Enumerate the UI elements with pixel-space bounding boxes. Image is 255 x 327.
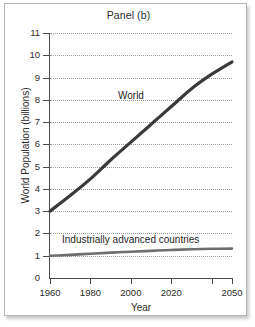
series-label-industrially-advanced-countries: Industrially advanced countries <box>62 234 199 245</box>
series-line-world <box>50 62 232 211</box>
series-label-world: World <box>118 90 144 101</box>
chart-series-layer <box>0 0 255 327</box>
series-line-industrially-advanced-countries <box>50 249 232 256</box>
